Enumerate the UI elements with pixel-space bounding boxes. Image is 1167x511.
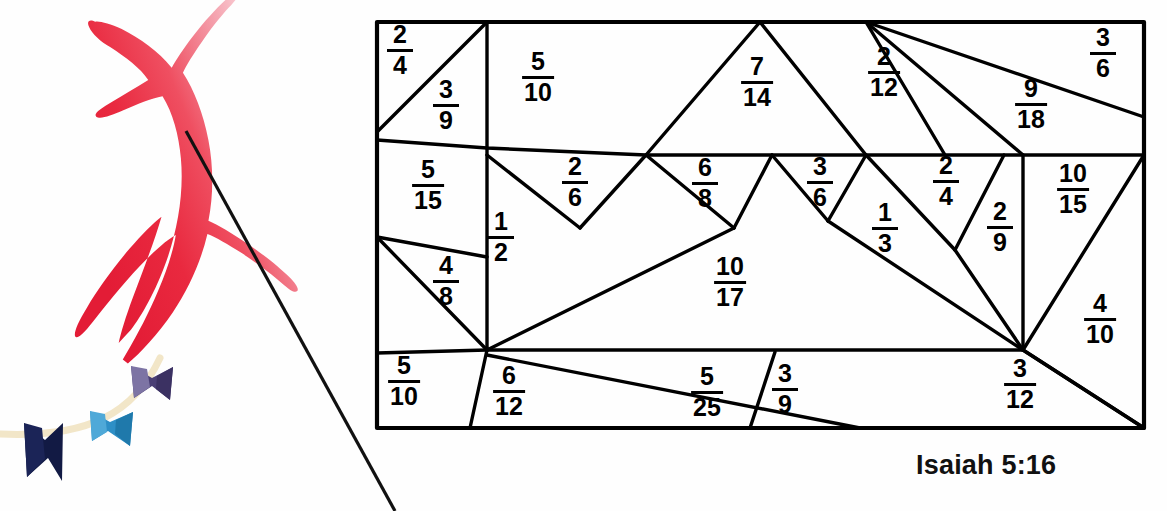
puzzle-linework — [0, 0, 1167, 511]
fraction-numerator: 10 — [1057, 161, 1089, 186]
fraction-denominator: 6 — [1094, 56, 1112, 81]
fraction-denominator: 12 — [493, 394, 525, 419]
fraction-cell-c11: 36 — [807, 154, 833, 210]
fraction-numerator: 5 — [698, 364, 716, 389]
fraction-denominator: 4 — [391, 53, 409, 78]
fraction-numerator: 3 — [811, 154, 829, 179]
fraction-numerator: 1 — [876, 200, 894, 225]
fraction-denominator: 18 — [1015, 107, 1047, 132]
fraction-denominator: 25 — [691, 395, 723, 420]
fraction-cell-c3: 510 — [522, 49, 554, 105]
fraction-cell-c10: 68 — [692, 155, 718, 211]
fraction-cell-c20: 510 — [388, 353, 420, 409]
edge-3-12-lower — [1023, 350, 1144, 428]
fraction-denominator: 2 — [492, 240, 510, 265]
fraction-cell-c5: 212 — [868, 44, 900, 100]
fraction-cell-c12: 24 — [933, 153, 959, 209]
page-root: 2439510714212918365152668362410151213294… — [0, 0, 1167, 511]
fraction-cell-c15: 13 — [872, 200, 898, 256]
edge-5-25-top — [487, 355, 860, 428]
scripture-caption: Isaiah 5:16 — [916, 450, 1056, 481]
fraction-numerator: 5 — [419, 157, 437, 182]
fraction-denominator: 4 — [937, 184, 955, 209]
fraction-denominator: 6 — [566, 185, 584, 210]
fraction-numerator: 3 — [1011, 356, 1029, 381]
fraction-numerator: 2 — [566, 154, 584, 179]
fraction-numerator: 2 — [937, 153, 955, 178]
fraction-cell-c1: 24 — [387, 22, 413, 78]
fraction-denominator: 15 — [412, 188, 444, 213]
fraction-cell-c13: 1015 — [1057, 161, 1089, 217]
fraction-numerator: 6 — [696, 155, 714, 180]
fraction-numerator: 10 — [714, 254, 746, 279]
fraction-numerator: 3 — [776, 361, 794, 386]
fraction-numerator: 2 — [991, 199, 1009, 224]
fraction-denominator: 15 — [1057, 192, 1089, 217]
edge-10-17-upper — [487, 228, 734, 350]
fraction-cell-c4: 714 — [741, 54, 773, 110]
fraction-denominator: 8 — [437, 284, 455, 309]
fraction-cell-c7: 36 — [1090, 25, 1116, 81]
fraction-denominator: 9 — [991, 230, 1009, 255]
fraction-cell-c24: 312 — [1004, 356, 1036, 412]
edge-4-8-bottom — [470, 350, 487, 428]
edge-2-9 — [955, 250, 1023, 350]
edge-3-12-left — [860, 350, 1023, 428]
fraction-numerator: 5 — [529, 49, 547, 74]
fraction-denominator: 9 — [776, 392, 794, 417]
fraction-denominator: 10 — [388, 384, 420, 409]
fraction-denominator: 8 — [696, 186, 714, 211]
fraction-cell-c9: 26 — [562, 154, 588, 210]
fraction-numerator: 4 — [437, 253, 455, 278]
zig-6 — [828, 155, 866, 221]
zig-3 — [646, 155, 734, 228]
fraction-cell-c21: 612 — [493, 363, 525, 419]
fraction-cell-c17: 48 — [433, 253, 459, 309]
zig-4 — [734, 155, 772, 228]
fraction-cell-c8: 515 — [412, 157, 444, 213]
fraction-denominator: 9 — [437, 108, 455, 133]
fraction-cell-c22: 525 — [691, 364, 723, 420]
fraction-numerator: 2 — [391, 22, 409, 47]
fraction-denominator: 3 — [876, 231, 894, 256]
fraction-denominator: 17 — [714, 285, 746, 310]
fraction-cell-c16: 29 — [987, 199, 1013, 255]
fraction-numerator: 4 — [1091, 291, 1109, 316]
fraction-cell-c18: 1017 — [714, 254, 746, 310]
fraction-denominator: 10 — [522, 80, 554, 105]
fraction-numerator: 9 — [1022, 76, 1040, 101]
fraction-numerator: 6 — [500, 363, 518, 388]
fraction-denominator: 12 — [868, 75, 900, 100]
fraction-cell-c19: 410 — [1084, 291, 1116, 347]
fraction-cell-c6: 918 — [1015, 76, 1047, 132]
fraction-denominator: 10 — [1084, 322, 1116, 347]
fraction-numerator: 7 — [748, 54, 766, 79]
fraction-denominator: 14 — [741, 85, 773, 110]
fraction-numerator: 5 — [395, 353, 413, 378]
fraction-numerator: 1 — [492, 209, 510, 234]
fraction-numerator: 2 — [875, 44, 893, 69]
fraction-cell-c14: 12 — [488, 209, 514, 265]
fraction-cell-c2: 39 — [433, 77, 459, 133]
fraction-cell-c23: 39 — [772, 361, 798, 417]
fraction-denominator: 12 — [1004, 387, 1036, 412]
edge-7-14-right — [760, 22, 866, 155]
fraction-numerator: 3 — [1094, 25, 1112, 50]
fraction-numerator: 3 — [437, 77, 455, 102]
fraction-denominator: 6 — [811, 185, 829, 210]
zig-2 — [580, 155, 646, 228]
divider-upper — [377, 140, 1144, 155]
